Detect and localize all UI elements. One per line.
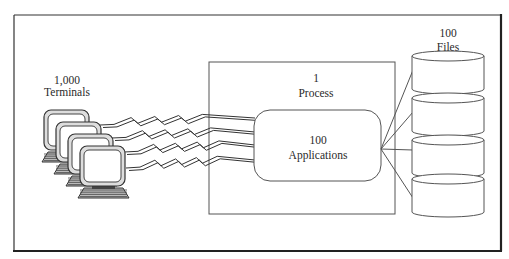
file-cylinder-icon bbox=[412, 174, 484, 217]
applications-count-label: 100 bbox=[309, 134, 327, 146]
process-count-label: 1 bbox=[313, 72, 319, 84]
file-cylinder-icon bbox=[412, 93, 484, 136]
diagram-svg: 1 Process 100 Applications 100 Files 1,0… bbox=[0, 0, 509, 259]
computer-terminal-icon bbox=[78, 146, 129, 198]
diagram-canvas: 1 Process 100 Applications 100 Files 1,0… bbox=[0, 0, 509, 259]
file-cylinder-icon bbox=[412, 51, 484, 94]
files-count-label: 100 bbox=[439, 27, 457, 39]
file-stack bbox=[412, 51, 484, 217]
terminals-name-label: Terminals bbox=[44, 86, 90, 98]
process-name-label: Process bbox=[298, 87, 334, 99]
applications-name-label: Applications bbox=[289, 149, 348, 162]
file-cylinder-icon bbox=[412, 135, 484, 178]
